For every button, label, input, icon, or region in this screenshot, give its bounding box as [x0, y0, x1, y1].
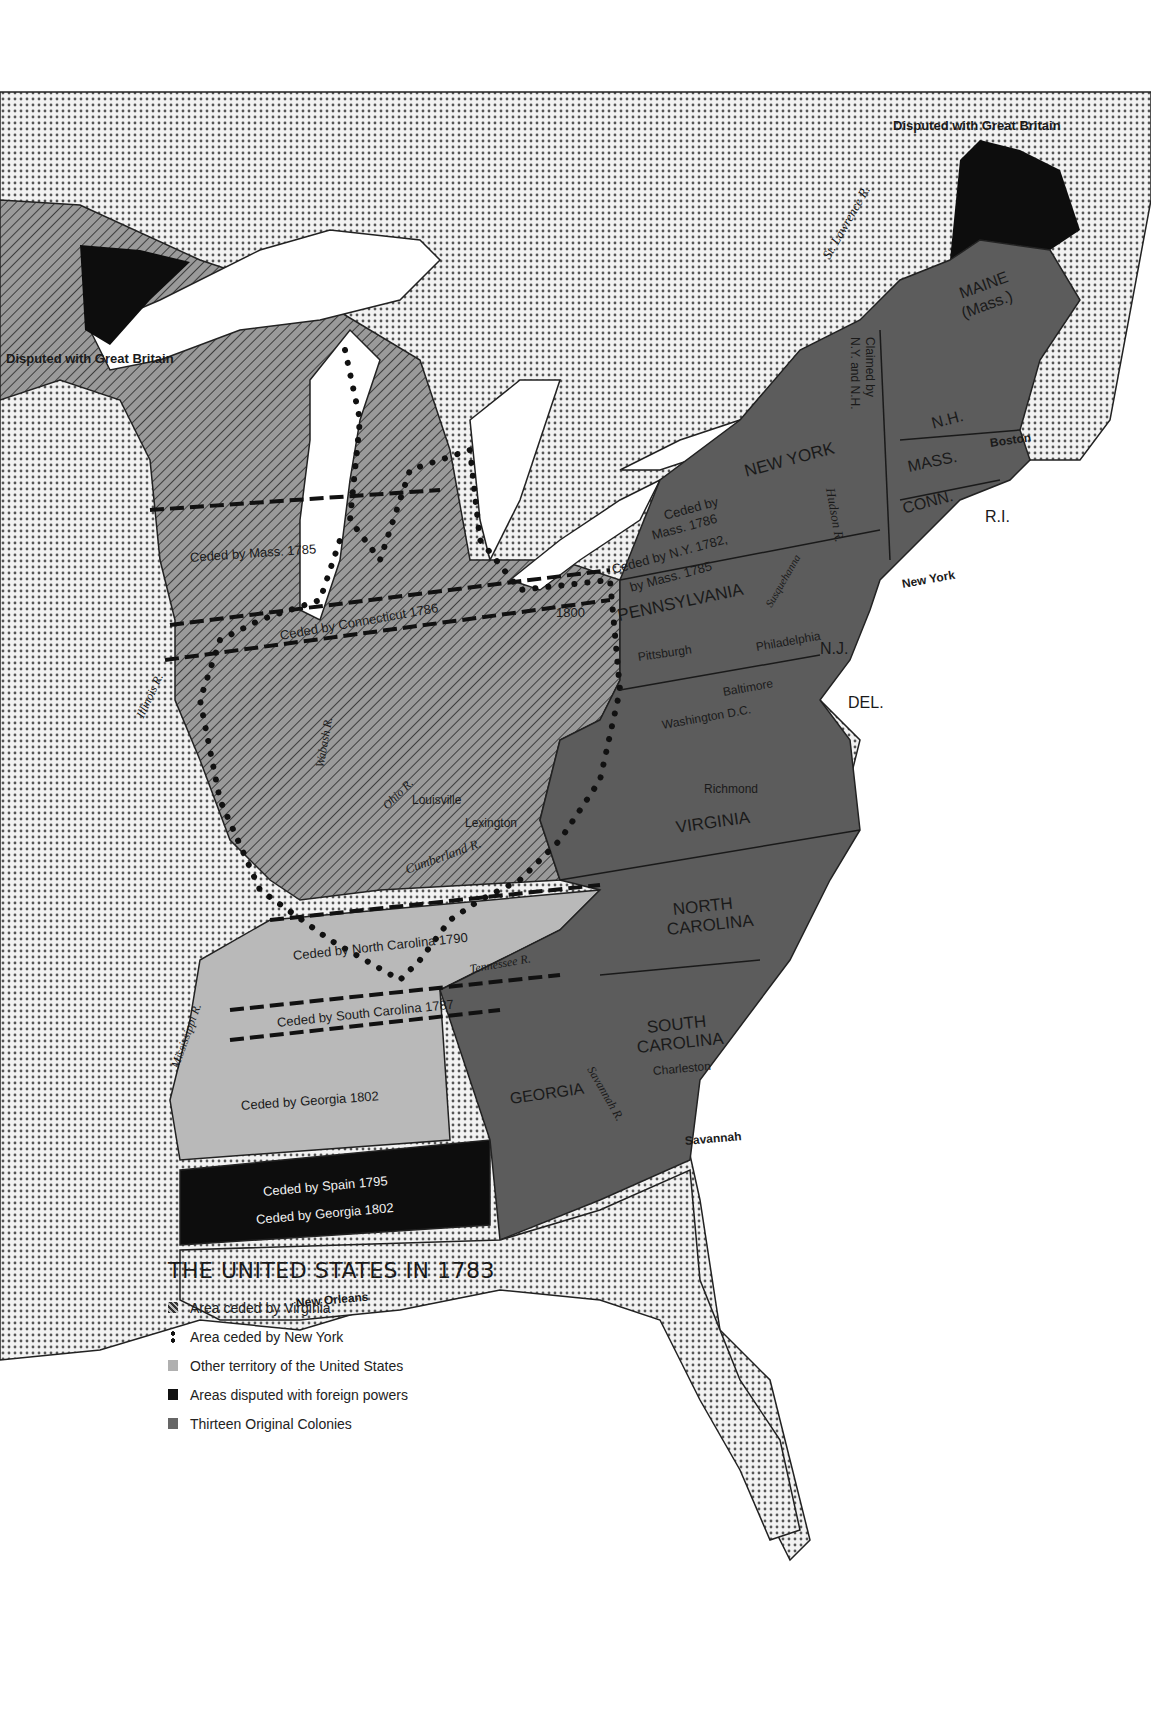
label-disputed-ne: Disputed with Great Britain [893, 118, 1061, 133]
legend-label: Other territory of the United States [190, 1358, 403, 1374]
legend-item-disputed: Areas disputed with foreign powers [168, 1380, 495, 1409]
map-canvas [0, 0, 1151, 1711]
legend-item-other-territory: Other territory of the United States [168, 1351, 495, 1380]
label-richmond: Richmond [704, 782, 758, 796]
legend-item-new-york: Area ceded by New York [168, 1322, 495, 1351]
label-nj: N.J. [820, 640, 848, 658]
legend-label: Area ceded by Virginia [190, 1300, 331, 1316]
label-del: DEL. [848, 694, 884, 712]
legend-label: Areas disputed with foreign powers [190, 1387, 408, 1403]
label-year-1800: 1800 [556, 605, 585, 620]
legend-item-colonies: Thirteen Original Colonies [168, 1409, 495, 1438]
label-claimed-1: Claimed by [863, 337, 877, 397]
legend-label: Area ceded by New York [190, 1329, 343, 1345]
dots-icon [168, 1330, 178, 1344]
square-icon [168, 1360, 178, 1371]
label-louisville: Louisville [412, 793, 461, 807]
label-disputed-nw: Disputed with Great Britain [6, 351, 174, 366]
square-icon [168, 1389, 178, 1400]
hatch-icon [168, 1302, 178, 1313]
legend-item-virginia: Area ceded by Virginia [168, 1293, 495, 1322]
square-icon [168, 1418, 178, 1429]
label-claimed-2: N.Y. and N.H. [848, 337, 862, 409]
legend-label: Thirteen Original Colonies [190, 1416, 352, 1432]
map-title: THE UNITED STATES IN 1783 [168, 1258, 495, 1283]
map-legend: THE UNITED STATES IN 1783 Area ceded by … [168, 1258, 495, 1438]
label-lexington: Lexington [465, 816, 517, 830]
label-ri: R.I. [985, 508, 1010, 526]
